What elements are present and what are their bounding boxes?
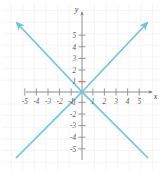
x-tick-label: -2 — [57, 98, 63, 106]
x-tick-label: -5 — [22, 98, 28, 106]
x-tick-label: 5 — [137, 98, 141, 106]
axes — [26, 12, 152, 160]
y-axis-label: y — [74, 5, 79, 14]
x-tick-label: -4 — [33, 98, 39, 106]
y-tick-label: -1 — [70, 99, 76, 107]
y-tick-label: 1 — [72, 78, 76, 86]
y-tick-label: 2 — [72, 67, 76, 75]
y-tick-label: 4 — [72, 44, 76, 52]
x-tick-label: -3 — [45, 98, 51, 106]
y-tick-label: -3 — [70, 122, 76, 130]
y-tick-label: 5 — [72, 32, 76, 40]
y-tick-label: -4 — [70, 134, 76, 142]
y-tick-label: -5 — [70, 146, 76, 154]
graph-figure: -5 -4 -3 -2 -1 1 2 3 4 5 5 4 3 2 1 -1 -2… — [0, 0, 162, 173]
x-axis-label: x — [153, 92, 158, 101]
y-tick-label: 3 — [71, 55, 76, 63]
y-tick-label: -2 — [70, 111, 76, 119]
x-tick-label: 4 — [126, 98, 130, 106]
x-tick-label: 3 — [113, 98, 118, 106]
coordinate-plane-svg: -5 -4 -3 -2 -1 1 2 3 4 5 5 4 3 2 1 -1 -2… — [0, 0, 162, 173]
x-tick-label: 1 — [91, 98, 95, 106]
x-tick-label: 2 — [103, 98, 107, 106]
curve-right-branch — [82, 23, 148, 93]
